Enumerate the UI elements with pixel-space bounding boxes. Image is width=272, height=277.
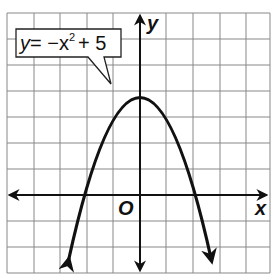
origin-label: O (118, 197, 134, 219)
svg-text:y= −x2+ 5: y= −x2+ 5 (18, 31, 106, 54)
callout-eq: = −x (30, 32, 69, 54)
parabola-graph: y x O y= −x2+ 5 (0, 0, 272, 277)
equation-callout: y= −x2+ 5 (16, 29, 121, 84)
callout-tail: + 5 (78, 32, 106, 54)
y-axis-label: y (146, 12, 159, 34)
x-axis-label: x (254, 197, 267, 219)
callout-exponent: 2 (69, 31, 75, 43)
